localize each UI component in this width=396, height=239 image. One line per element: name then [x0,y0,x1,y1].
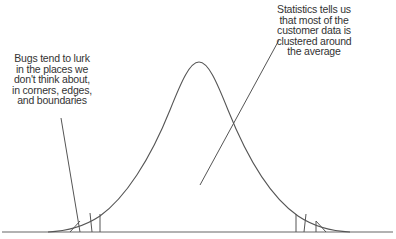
bell-curve [48,62,350,232]
right-pointer-line [200,40,279,185]
left-pointer-line [61,118,80,232]
left-edge-marker-2 [90,213,92,232]
right-edge-marker-2 [304,214,306,232]
left-annotation-text: Bugs tend to lurk in the places we don't… [12,53,92,106]
right-edge-marker-4 [316,221,326,232]
right-annotation-text: Statistics tells us that most of the cus… [274,4,354,57]
